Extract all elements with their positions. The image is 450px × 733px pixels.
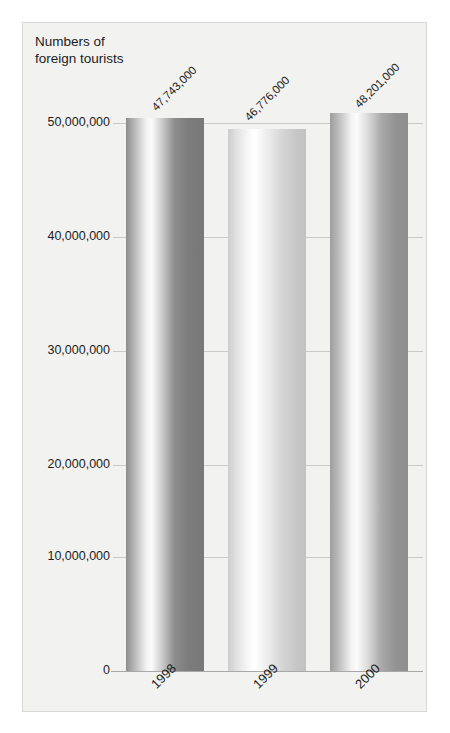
chart-frame: Numbers of foreign tourists 50,000,000 4… [22, 22, 427, 712]
bar-1999[interactable] [228, 129, 306, 671]
bar-2000[interactable] [330, 113, 408, 671]
bar-series [23, 23, 428, 713]
plot-area: 50,000,000 40,000,000 30,000,000 20,000,… [23, 23, 428, 713]
bar-1998[interactable] [126, 118, 204, 671]
figure: Numbers of foreign tourists 50,000,000 4… [0, 0, 450, 733]
